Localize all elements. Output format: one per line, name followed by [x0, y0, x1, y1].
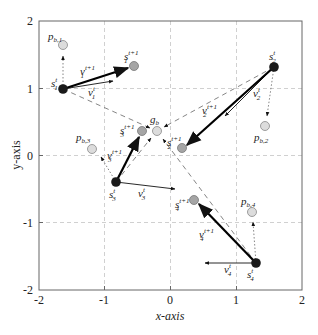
- svg-text:vt+11: vt+11: [80, 64, 95, 80]
- x-axis-label: x-axis: [155, 309, 185, 323]
- y-tick-labels: 2 1 0 -1 -2: [23, 14, 33, 297]
- particle-1-current: [58, 84, 68, 94]
- svg-text:1: 1: [27, 82, 33, 96]
- x-tick-labels: -2 -1 0 1 2: [34, 293, 305, 307]
- particle-3-next: [138, 127, 147, 136]
- svg-text:st+14: st+14: [175, 197, 189, 213]
- svg-text:pb,2: pb,2: [253, 131, 269, 145]
- svg-text:-1: -1: [99, 293, 109, 307]
- pso-diagram: -2 -1 0 1 2 2 1 0 -1 -2 x-axis y-axis: [0, 0, 318, 335]
- particle-1-next: [130, 62, 139, 71]
- svg-text:vt4: vt4: [224, 262, 232, 278]
- svg-text:pb,3: pb,3: [75, 131, 91, 145]
- svg-text:st4: st4: [247, 267, 254, 283]
- svg-text:-2: -2: [23, 283, 33, 297]
- svg-text:-2: -2: [34, 293, 44, 307]
- personal-best-2: [261, 122, 270, 131]
- svg-text:0: 0: [27, 149, 33, 163]
- svg-text:2: 2: [27, 14, 33, 28]
- particle-4-next: [190, 196, 199, 205]
- svg-text:2: 2: [299, 293, 305, 307]
- grid: [39, 21, 302, 290]
- svg-text:vt+13: vt+13: [107, 148, 122, 164]
- particle-2-next: [178, 144, 187, 153]
- svg-text:-1: -1: [23, 216, 33, 230]
- y-axis-label: y-axis: [9, 140, 23, 170]
- svg-text:st2: st2: [269, 49, 276, 65]
- particle-3-current: [111, 177, 121, 187]
- svg-text:vt2: vt2: [253, 86, 261, 102]
- svg-text:vt3: vt3: [138, 186, 146, 202]
- svg-text:vt+14: vt+14: [199, 227, 214, 243]
- svg-text:pb,1: pb,1: [47, 30, 62, 44]
- next-positions: [130, 62, 199, 205]
- svg-text:st1: st1: [51, 76, 58, 92]
- svg-text:0: 0: [167, 293, 173, 307]
- svg-text:gb: gb: [150, 113, 160, 127]
- svg-text:st+13: st+13: [119, 123, 134, 139]
- point-labels: pb,1 st1 st+11 vt+11 vt1 st2 vt2 vt+12 p…: [47, 30, 276, 283]
- svg-text:1: 1: [233, 293, 239, 307]
- global-best: [153, 127, 162, 136]
- svg-text:st3: st3: [109, 187, 116, 203]
- personal-best-3: [88, 145, 97, 154]
- svg-text:vt1: vt1: [88, 85, 96, 101]
- svg-text:pb,4: pb,4: [240, 195, 256, 209]
- svg-text:vt+12: vt+12: [202, 103, 217, 119]
